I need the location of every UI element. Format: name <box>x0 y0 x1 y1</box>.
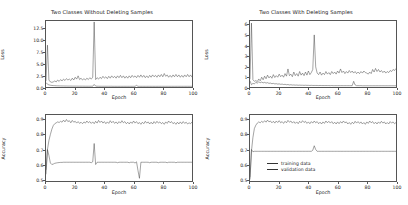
x-tick-mark <box>45 88 46 90</box>
legend-line-training-icon <box>267 163 278 164</box>
x-tick-mark <box>163 88 164 90</box>
panel-accuracy-with-deleting: 0.50.60.70.80.9 020406080100 Accuracy Ep… <box>204 103 408 205</box>
x-tick-mark <box>193 182 194 184</box>
yaxis-label-accuracy-without-deleting: Accuracy <box>1 138 6 160</box>
legend-item-validation: validation data <box>267 166 335 172</box>
x-tick-mark <box>367 182 368 184</box>
x-tick-mark <box>104 182 105 184</box>
x-tick-mark <box>249 88 250 90</box>
x-tick-mark <box>397 88 398 90</box>
xaxis-label-loss-with-deleting: Epoch <box>249 95 397 100</box>
x-tick-mark <box>163 182 164 184</box>
x-tick-mark <box>367 88 368 90</box>
panel-loss-with-deleting: Two Classes With Deleting Samples 012345… <box>204 0 408 103</box>
x-tick-mark <box>279 88 280 90</box>
x-tick-label: 60 <box>131 185 137 190</box>
x-tick-label: 40 <box>305 185 311 190</box>
figure-canvas: Two Classes Without Deleting Samples 0.0… <box>0 0 408 205</box>
x-tick-mark <box>134 182 135 184</box>
chart-legend: training data validation data <box>264 158 338 174</box>
xaxis-label-accuracy-without-deleting: Epoch <box>45 190 193 195</box>
x-tick-label: 60 <box>335 185 341 190</box>
yaxis-label-accuracy-with-deleting: Accuracy <box>205 138 210 160</box>
xaxis-ticks-loss-without-deleting: 020406080100 <box>0 0 204 103</box>
yaxis-label-loss-with-deleting: Loss <box>204 49 209 60</box>
panel-loss-without-deleting: Two Classes Without Deleting Samples 0.0… <box>0 0 204 103</box>
xaxis-ticks-loss-with-deleting: 020406080100 <box>204 0 408 103</box>
x-tick-mark <box>338 182 339 184</box>
x-tick-label: 20 <box>72 185 78 190</box>
x-tick-mark <box>249 182 250 184</box>
x-tick-mark <box>45 182 46 184</box>
x-tick-mark <box>308 182 309 184</box>
x-tick-label: 100 <box>189 185 198 190</box>
x-tick-label: 80 <box>160 185 166 190</box>
x-tick-mark <box>75 182 76 184</box>
x-tick-mark <box>75 88 76 90</box>
x-tick-label: 20 <box>276 185 282 190</box>
xaxis-label-loss-without-deleting: Epoch <box>45 95 193 100</box>
yaxis-label-loss-without-deleting: Loss <box>0 49 5 60</box>
x-tick-label: 100 <box>393 185 402 190</box>
x-tick-label: 80 <box>364 185 370 190</box>
panel-accuracy-without-deleting: 0.50.60.70.80.9 020406080100 Accuracy Ep… <box>0 103 204 205</box>
x-tick-mark <box>134 88 135 90</box>
x-tick-mark <box>279 182 280 184</box>
x-tick-mark <box>193 88 194 90</box>
xaxis-label-accuracy-with-deleting: Epoch <box>249 190 397 195</box>
x-tick-label: 40 <box>101 185 107 190</box>
x-tick-label: 0 <box>248 185 251 190</box>
x-tick-label: 0 <box>44 185 47 190</box>
x-tick-mark <box>397 182 398 184</box>
x-tick-mark <box>308 88 309 90</box>
x-tick-mark <box>338 88 339 90</box>
x-tick-mark <box>104 88 105 90</box>
legend-label-training: training data <box>281 161 311 166</box>
legend-label-validation: validation data <box>281 167 315 172</box>
legend-line-validation-icon <box>267 169 278 170</box>
